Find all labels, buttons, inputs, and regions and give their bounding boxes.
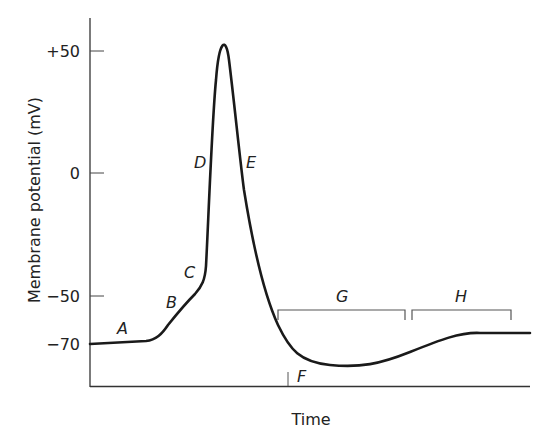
phase-label-d: D <box>194 153 206 172</box>
phase-label-f: F <box>297 367 307 386</box>
action-potential-chart: +50 0 −50 −70 Membrane potential (mV) Ti… <box>0 0 555 447</box>
y-axis-label: Membrane potential (mV) <box>25 97 44 303</box>
phase-label-a: A <box>116 319 128 338</box>
phase-label-c: C <box>184 263 196 282</box>
y-tick-label-p50: +50 <box>46 42 80 61</box>
phase-label-b: B <box>166 293 177 312</box>
phase-label-h: H <box>455 287 467 306</box>
y-tick-label-m70: −70 <box>46 335 80 354</box>
x-axis-label: Time <box>290 410 330 429</box>
bracket-h <box>412 310 511 320</box>
y-tick-label-m50: −50 <box>46 287 80 306</box>
bracket-g <box>278 310 405 320</box>
y-tick-label-zero: 0 <box>70 164 80 183</box>
phase-label-e: E <box>246 153 257 172</box>
action-potential-curve <box>90 45 530 366</box>
phase-label-g: G <box>336 287 348 306</box>
